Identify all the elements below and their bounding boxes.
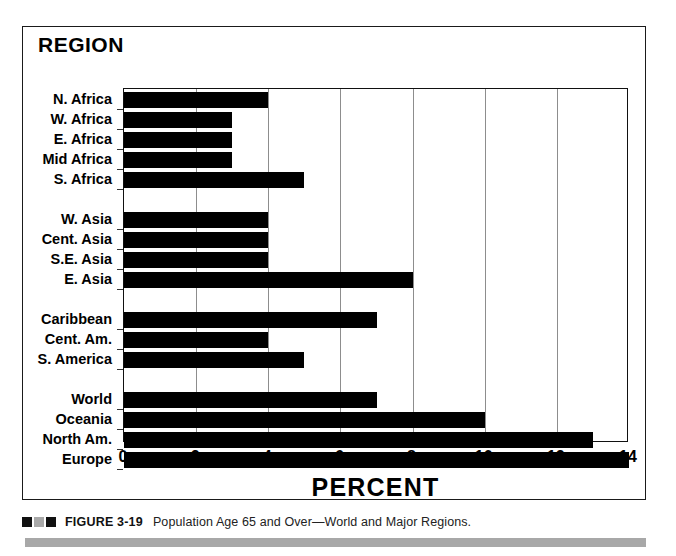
y-axis-label: Oceania xyxy=(56,411,112,427)
y-axis-label: E. Africa xyxy=(54,131,112,147)
y-axis-label: Cent. Asia xyxy=(42,231,112,247)
bars-layer xyxy=(124,89,627,441)
x-axis-title: PERCENT xyxy=(123,473,628,502)
bar xyxy=(124,232,268,248)
bar-row xyxy=(124,132,629,148)
y-axis-label: Cent. Am. xyxy=(45,331,112,347)
y-axis-label: S. America xyxy=(38,351,112,367)
bar xyxy=(124,132,232,148)
y-axis-label: World xyxy=(71,391,112,407)
y-axis-label: S. Africa xyxy=(54,171,112,187)
y-axis-label: S.E. Asia xyxy=(50,251,112,267)
x-axis-tick-label: 6 xyxy=(319,448,359,466)
figure-caption: FIGURE 3-19 Population Age 65 and Over—W… xyxy=(22,512,646,532)
x-axis-tick-label: 2 xyxy=(175,448,215,466)
bar-row xyxy=(124,352,629,368)
bar xyxy=(124,272,413,288)
y-axis-label: N. Africa xyxy=(53,91,112,107)
bar-row xyxy=(124,212,629,228)
bar-row xyxy=(124,252,629,268)
x-axis-tick-label: 12 xyxy=(536,448,576,466)
bar xyxy=(124,332,268,348)
bar-row xyxy=(124,112,629,128)
bottom-accent-bar xyxy=(25,538,646,547)
bar-row xyxy=(124,272,629,288)
bar-row xyxy=(124,152,629,168)
bar-row xyxy=(124,312,629,328)
x-axis-tick-label: 10 xyxy=(464,448,504,466)
y-axis-label: Caribbean xyxy=(41,311,112,327)
bar xyxy=(124,412,485,428)
x-axis-tick-label: 14 xyxy=(608,448,648,466)
bar xyxy=(124,252,268,268)
caption-marker-icons xyxy=(22,517,56,527)
bar xyxy=(124,392,377,408)
bar xyxy=(124,172,304,188)
y-axis-label: W. Asia xyxy=(61,211,112,227)
bar-row xyxy=(124,432,629,448)
bar-row xyxy=(124,172,629,188)
x-axis-tick-label: 4 xyxy=(247,448,287,466)
bar xyxy=(124,352,304,368)
bar xyxy=(124,312,377,328)
bar-row xyxy=(124,412,629,428)
bar xyxy=(124,112,232,128)
bar xyxy=(124,92,268,108)
caption-square-icon xyxy=(46,517,56,527)
y-axis-label: North Am. xyxy=(42,431,112,447)
plot-area xyxy=(123,88,628,442)
bar xyxy=(124,212,268,228)
caption-square-icon xyxy=(22,517,32,527)
x-axis-tick-label: 0 xyxy=(103,448,143,466)
bar-row xyxy=(124,332,629,348)
bar-row xyxy=(124,232,629,248)
bar-row xyxy=(124,92,629,108)
y-axis-label: E. Asia xyxy=(64,271,112,287)
y-axis-label: Mid Africa xyxy=(42,151,112,167)
caption-description: Population Age 65 and Over—World and Maj… xyxy=(153,515,471,529)
x-axis-tick-label: 8 xyxy=(392,448,432,466)
x-axis-tick-labels: 02468101214 xyxy=(0,448,676,470)
y-axis-category-labels: N. AfricaW. AfricaE. AfricaMid AfricaS. … xyxy=(0,88,117,442)
bar xyxy=(124,152,232,168)
y-axis-label: W. Africa xyxy=(50,111,112,127)
bar-row xyxy=(124,392,629,408)
caption-square-icon xyxy=(34,517,44,527)
chart-title: REGION xyxy=(38,33,124,57)
caption-figure-number: FIGURE 3-19 xyxy=(65,515,143,529)
bar xyxy=(124,432,593,448)
